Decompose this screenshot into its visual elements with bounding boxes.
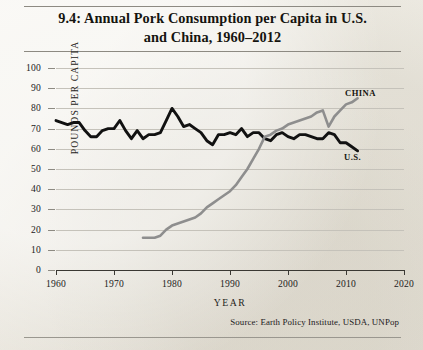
x-tick-label: 2010 — [321, 278, 371, 289]
y-tick-label: 50 — [13, 163, 41, 174]
x-tick-mark — [404, 270, 405, 275]
x-tick-mark — [230, 270, 231, 275]
y-tick-mark — [48, 169, 55, 170]
x-tick-label: 1970 — [89, 278, 139, 289]
source-note: Source: Earth Policy Institute, USDA, UN… — [230, 317, 399, 327]
x-tick-mark — [346, 270, 347, 275]
y-tick-mark — [48, 129, 55, 130]
y-tick-label: 40 — [13, 183, 41, 194]
y-tick-label: 100 — [13, 62, 41, 73]
y-tick-mark — [48, 209, 55, 210]
y-tick-label: 0 — [13, 264, 41, 275]
y-tick-label: 90 — [13, 82, 41, 93]
y-tick-mark — [48, 149, 55, 150]
bottom-rule — [24, 337, 401, 338]
x-tick-label: 1980 — [147, 278, 197, 289]
y-tick-mark — [48, 250, 55, 251]
y-tick-label: 20 — [13, 224, 41, 235]
y-tick-label: 70 — [13, 123, 41, 134]
x-tick-label: 2000 — [263, 278, 313, 289]
series-label-china: CHINA — [345, 88, 376, 98]
series-line-china — [143, 98, 358, 237]
x-axis-label: YEAR — [56, 297, 404, 308]
y-tick-label: 10 — [13, 244, 41, 255]
x-tick-mark — [114, 270, 115, 275]
x-tick-label: 2020 — [379, 278, 423, 289]
chart-area: POUNDS PER CAPITA CHINA U.S. YEAR 010203… — [0, 0, 423, 350]
series-plot — [56, 68, 404, 270]
y-tick-mark — [48, 230, 55, 231]
y-tick-label: 60 — [13, 143, 41, 154]
figure-page: 9.4: Annual Pork Consumption per Capita … — [0, 0, 423, 350]
x-tick-label: 1990 — [205, 278, 255, 289]
y-tick-mark — [48, 270, 55, 271]
y-tick-label: 30 — [13, 203, 41, 214]
x-tick-mark — [56, 270, 57, 275]
x-tick-label: 1960 — [31, 278, 81, 289]
x-tick-mark — [172, 270, 173, 275]
series-label-us: U.S. — [344, 152, 361, 162]
y-tick-mark — [48, 88, 55, 89]
x-tick-mark — [288, 270, 289, 275]
y-tick-label: 80 — [13, 102, 41, 113]
y-tick-mark — [48, 68, 55, 69]
y-tick-mark — [48, 189, 55, 190]
y-tick-mark — [48, 108, 55, 109]
